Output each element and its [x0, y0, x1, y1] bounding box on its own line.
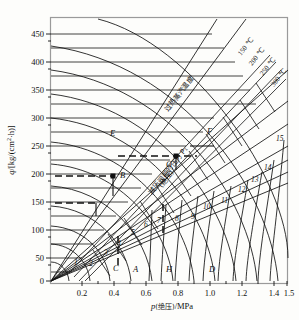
curve-label-10: 10 [203, 202, 211, 211]
curve-label-15: 15 [276, 134, 284, 143]
y-tick-label: 350 [31, 85, 44, 95]
curve-label-9: 9 [191, 212, 195, 221]
point-label-H: H [165, 264, 173, 274]
point-label-A: A [132, 264, 139, 274]
y-tick-label: 450 [31, 29, 44, 39]
curve-label-8: 8 [175, 214, 179, 223]
curve-label-11: 11 [221, 196, 228, 205]
point-label-B: B [120, 170, 125, 180]
curve-label-3: 3 [103, 248, 108, 257]
point-label-C: C [113, 263, 119, 273]
y-tick-label: 100 [31, 225, 44, 235]
steam-flow-nomograph: 450 400 350 300 250 200 150 100 50 0 0.2… [0, 0, 299, 320]
y-tick-label: 150 [31, 197, 44, 207]
curve-label-13: 13 [251, 175, 259, 184]
curve-label-2: 2 [89, 259, 93, 268]
y-tick-label: 400 [31, 57, 44, 67]
curve-label-7: 7 [157, 216, 161, 225]
y-tick-label: 0 [40, 276, 44, 286]
y-axis-label: q/[kg/(cm2·h)] [6, 125, 16, 174]
curve-label-14: 14 [264, 163, 272, 172]
curve-label-1: 1 [74, 258, 78, 267]
y-tick-label: 250 [31, 141, 44, 151]
curve-label-6: 6 [144, 220, 148, 229]
point-label-G: G [166, 159, 172, 169]
x-tick-label: 0.4 [109, 288, 120, 298]
x-tick-label: 0.6 [141, 288, 152, 298]
marker-B-square [111, 174, 116, 179]
curve-label-4: 4 [117, 239, 121, 248]
x-tick-label: 1.4 [269, 288, 280, 298]
x-tick-label: 0.2 [77, 288, 88, 298]
chart-root: 450 400 350 300 250 200 150 100 50 0 0.2… [0, 0, 299, 320]
x-tick-label: 1.5 [284, 288, 295, 298]
point-label-F: F [206, 126, 213, 136]
x-axis-label: p(绝压)/MPa [150, 301, 193, 311]
y-tick-label: 300 [31, 113, 44, 123]
x-tick-label: 0.8 [173, 288, 184, 298]
x-tick-label: 1.2 [237, 288, 248, 298]
x-tick-label: 1.0 [205, 288, 216, 298]
curve-label-12: 12 [238, 185, 246, 194]
point-label-E: E [109, 128, 116, 138]
curve-label-5: 5 [131, 228, 135, 237]
y-tick-label: 200 [31, 169, 44, 179]
point-label-D: D [208, 264, 216, 274]
y-tick-label: 50 [36, 253, 45, 263]
